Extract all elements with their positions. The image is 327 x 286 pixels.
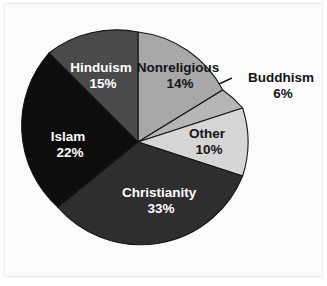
label-islam: Islam 22% <box>51 129 89 160</box>
label-christianity-name: Christianity <box>122 185 197 200</box>
label-buddhism-pct: 6% <box>273 86 293 101</box>
label-buddhism: Buddhism 6% <box>248 70 318 101</box>
label-other-pct: 10% <box>195 142 222 157</box>
label-islam-pct: 22% <box>56 145 83 160</box>
pie-chart: Nonreligious 14% Buddhism 6% Other 10% C… <box>0 0 327 286</box>
label-other-name: Other <box>189 126 226 141</box>
label-islam-name: Islam <box>51 129 86 144</box>
buddhism-leader-line <box>219 78 232 84</box>
label-buddhism-name: Buddhism <box>248 70 314 85</box>
pie-chart-figure: Nonreligious 14% Buddhism 6% Other 10% C… <box>0 0 327 286</box>
label-nonreligious-name: Nonreligious <box>137 60 220 75</box>
label-christianity-pct: 33% <box>147 201 174 216</box>
label-hinduism-name: Hinduism <box>70 60 132 75</box>
label-hinduism-pct: 15% <box>89 76 116 91</box>
label-nonreligious-pct: 14% <box>166 76 193 91</box>
